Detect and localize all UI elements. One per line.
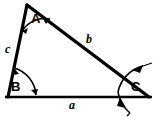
triangle-sides (5, 5, 152, 97)
triangle-figure (0, 0, 153, 117)
arrowhead-C-lower (117, 97, 126, 108)
side-label-c: c (5, 43, 10, 55)
geometry-diagram: A B C a b c (0, 0, 153, 117)
vertex-label-C: C (131, 80, 140, 93)
side-label-a: a (69, 99, 75, 111)
vertex-label-B: B (11, 80, 20, 93)
vertex-label-A: A (31, 12, 40, 25)
side-label-b: b (86, 33, 92, 45)
arrowhead-B-bottom (31, 89, 38, 95)
